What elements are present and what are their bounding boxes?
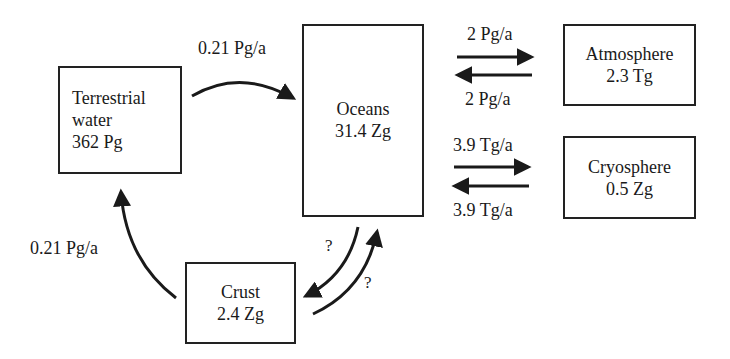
node-label: Cryosphere: [588, 156, 671, 178]
flow-label-atmosphere-to-oceans: 2 Pg/a: [465, 89, 511, 109]
node-label: water: [72, 109, 112, 131]
node-crust: Crust 2.4 Zg: [185, 262, 296, 344]
node-atmosphere: Atmosphere 2.3 Tg: [563, 24, 696, 106]
node-amount: 362 Pg: [72, 131, 123, 153]
flow-label-crust-to-terrestrial: 0.21 Pg/a: [30, 238, 98, 258]
node-label: Atmosphere: [586, 43, 674, 65]
node-label: Oceans: [337, 98, 390, 120]
node-amount: 0.5 Zg: [606, 178, 653, 200]
flow-label-terrestrial-to-oceans: 0.21 Pg/a: [198, 38, 266, 58]
node-oceans: Oceans 31.4 Zg: [302, 24, 424, 217]
node-amount: 2.4 Zg: [217, 303, 264, 325]
node-amount: 31.4 Zg: [335, 120, 391, 142]
flow-label-oceans-to-cryosphere: 3.9 Tg/a: [453, 135, 513, 155]
node-amount: 2.3 Tg: [606, 65, 653, 87]
flow-label-oceans-to-crust: ?: [325, 236, 333, 256]
node-terrestrial-water: Terrestrial water 362 Pg: [58, 66, 182, 174]
node-cryosphere: Cryosphere 0.5 Zg: [563, 136, 696, 219]
flow-label-crust-to-oceans: ?: [364, 273, 372, 293]
node-label: Terrestrial: [72, 87, 146, 109]
flow-label-oceans-to-atmosphere: 2 Pg/a: [467, 24, 513, 44]
arrow-terrestrial-to-oceans: [192, 82, 293, 98]
node-label: Crust: [221, 281, 260, 303]
flow-label-cryosphere-to-oceans: 3.9 Tg/a: [453, 200, 513, 220]
arrow-crust-to-terrestrial: [121, 192, 176, 298]
